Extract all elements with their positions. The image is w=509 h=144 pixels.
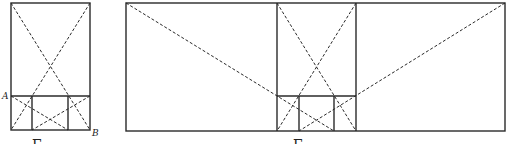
right-outer-rectangle <box>126 3 505 131</box>
right-long-diagonal-right <box>299 3 505 131</box>
left-small-diagonal-2 <box>32 96 90 130</box>
golden-rectangle-diagram: A B Б Б <box>0 0 509 144</box>
right-long-diagonal-left <box>126 3 334 131</box>
right-caption: Б <box>293 137 303 144</box>
left-caption: Б <box>32 137 42 144</box>
point-label-b: B <box>91 128 99 138</box>
right-figure: Б <box>126 3 505 144</box>
left-figure: A B Б <box>1 3 99 144</box>
point-label-a: A <box>1 91 9 101</box>
left-small-diagonal-1 <box>11 96 68 130</box>
